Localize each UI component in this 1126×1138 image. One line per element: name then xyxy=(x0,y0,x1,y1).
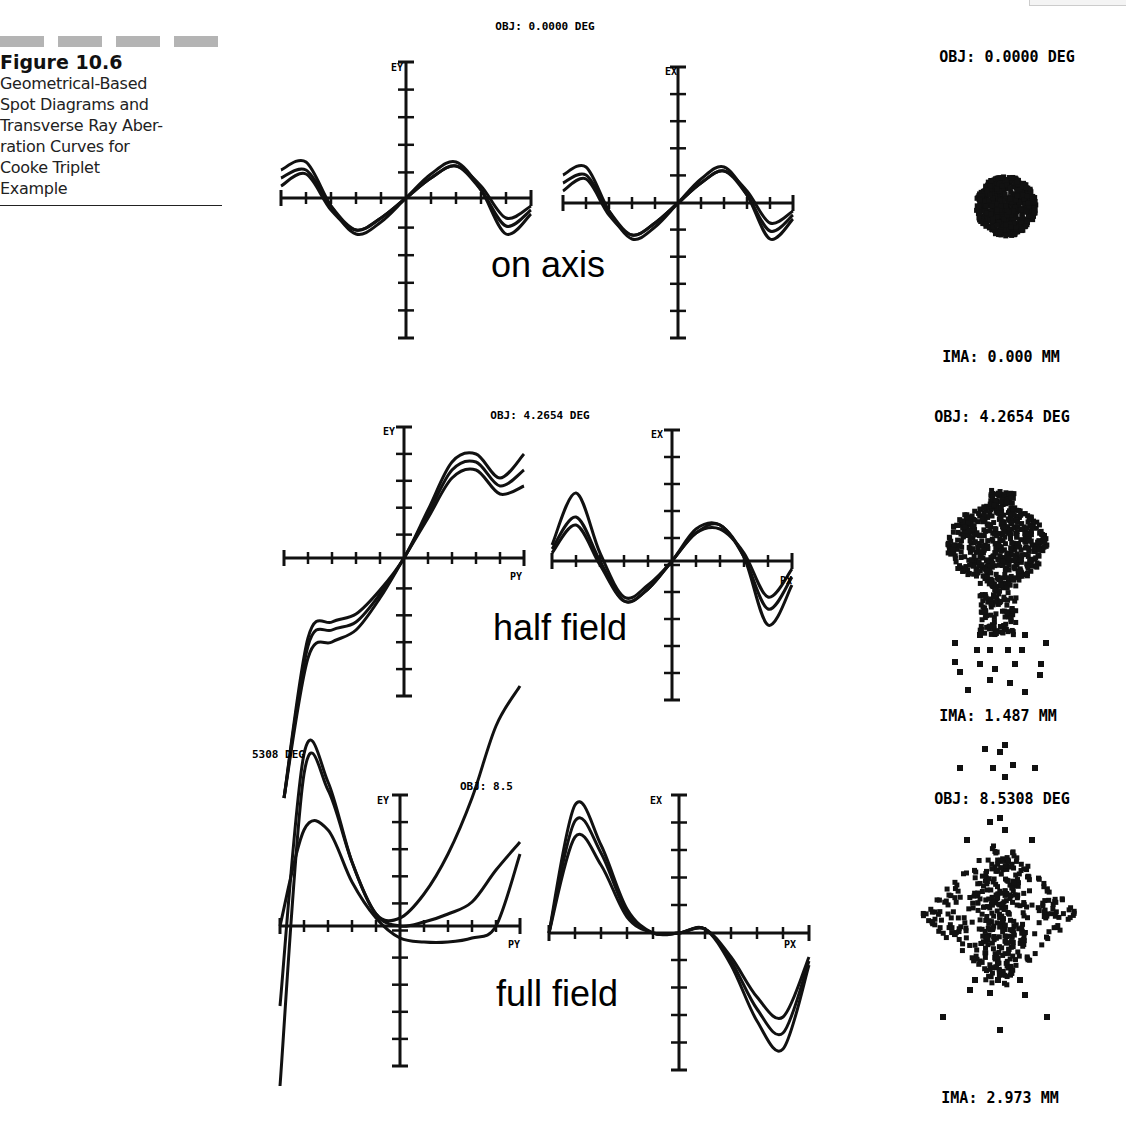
sagittal-fan-on-axis xyxy=(563,67,793,338)
axis-label-ex: EX xyxy=(650,795,662,806)
spot-title-half-field: OBJ: 4.2654 DEG xyxy=(934,408,1069,426)
sagittal-fan-half-field xyxy=(552,430,792,700)
sagittal-fan-full-field xyxy=(549,795,809,1070)
tangential-fan-on-axis xyxy=(281,62,531,338)
spot-diagram-full-field xyxy=(921,815,1077,1033)
spot-diagram-half-field xyxy=(945,488,1049,780)
fan-title-half-field: OBJ: 4.2654 DEG xyxy=(490,409,590,422)
row-label-on-axis: on axis xyxy=(491,244,605,285)
row-label-half-field: half field xyxy=(493,607,627,648)
aberration-figure: OBJ: 0.0000 DEG OBJ: 4.2654 DEG 5308 DEG… xyxy=(0,0,1126,1138)
fan-title-full-field-left-fragment: 5308 DEG xyxy=(252,748,305,761)
row-label-full-field: full field xyxy=(496,973,618,1014)
tangential-fan-half-field xyxy=(284,427,524,798)
axis-label-py: PY xyxy=(510,571,522,582)
spot-diagrams xyxy=(921,174,1077,1033)
axis-label-ey: EY xyxy=(377,795,389,806)
axis-label-ey: EY xyxy=(391,62,403,73)
axis-label-ey: EY xyxy=(383,426,395,437)
spot-image-height-full-field: IMA: 2.973 MM xyxy=(941,1089,1058,1107)
fan-title-full-field-right-fragment: OBJ: 8.5 xyxy=(460,780,513,793)
spot-image-height-on-axis: IMA: 0.000 MM xyxy=(942,348,1059,366)
spot-title-on-axis: OBJ: 0.0000 DEG xyxy=(939,48,1074,66)
axis-label-px: PX xyxy=(780,575,792,586)
tangential-fan-full-field xyxy=(280,686,520,1086)
spot-image-height-half-field: IMA: 1.487 MM xyxy=(939,707,1056,725)
axis-label-py: PY xyxy=(508,939,520,950)
spot-title-full-field: OBJ: 8.5308 DEG xyxy=(934,790,1069,808)
ray-fan-plots xyxy=(280,62,809,1086)
fan-title-on-axis: OBJ: 0.0000 DEG xyxy=(495,20,595,33)
axis-label-px: PX xyxy=(784,939,796,950)
axis-label-ex: EX xyxy=(665,66,677,77)
axis-label-ex: EX xyxy=(651,429,663,440)
spot-diagram-on-axis xyxy=(974,174,1038,238)
